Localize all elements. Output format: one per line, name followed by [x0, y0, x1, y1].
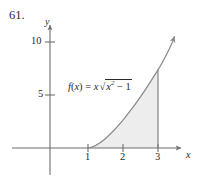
- figure-container: 61. y x 10 5 1 2 3 f(x) = x√x2 − 1: [0, 0, 200, 181]
- radicand-exponent: 2: [111, 79, 115, 87]
- y-axis-label: y: [45, 17, 49, 27]
- equals-sign: =: [85, 81, 91, 92]
- paren-close: ): [79, 81, 83, 92]
- x-tick-label-1: 1: [85, 152, 90, 163]
- radicand-remainder: − 1: [117, 80, 131, 91]
- square-root-expression: √x2 − 1: [98, 79, 131, 92]
- y-tick-label-5: 5: [38, 89, 43, 100]
- function-equation-label: f(x) = x√x2 − 1: [68, 79, 132, 92]
- y-tick-label-10: 10: [31, 36, 42, 47]
- radicand: x2 − 1: [105, 79, 132, 92]
- x-tick-label-2: 2: [120, 152, 125, 163]
- problem-number: 61.: [9, 9, 25, 22]
- x-tick-label-3: 3: [155, 152, 160, 163]
- x-axis-label: x: [186, 150, 190, 160]
